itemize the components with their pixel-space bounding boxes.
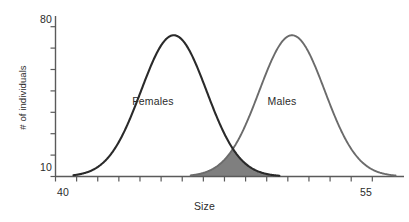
x-axis-tick-label-right: 55 <box>355 186 377 198</box>
chart-container: 80 10 40 55 # of individuals Size Female… <box>0 0 409 222</box>
y-axis-ticks <box>51 27 56 177</box>
x-axis-ticks <box>56 177 373 182</box>
males-curve-label: Males <box>252 95 312 107</box>
x-axis-title: Size <box>0 200 409 212</box>
y-axis-tick-label-top: 80 <box>30 13 52 25</box>
y-axis-title: # of individuals <box>17 38 28 158</box>
females-curve-label: Females <box>118 95 188 107</box>
y-axis-tick-label-bottom: 10 <box>30 161 52 173</box>
x-axis-tick-label-left: 40 <box>52 186 74 198</box>
